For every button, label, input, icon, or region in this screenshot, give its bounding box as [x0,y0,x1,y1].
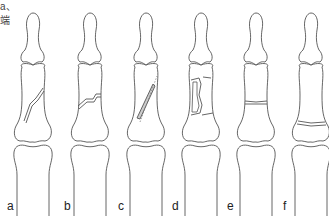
panel-label-d: d [172,199,179,213]
panel-label-f: f [283,199,286,213]
panel-label-e: e [227,199,234,213]
finger-a [14,13,52,216]
panel-label-b: b [64,199,71,213]
phalanx-fracture-diagram [0,0,329,216]
finger-c [127,13,165,216]
panel-label-a: a [7,199,14,213]
finger-d [182,13,220,216]
finger-b [71,13,109,216]
finger-f [292,13,329,216]
panel-label-c: c [118,199,124,213]
finger-e [237,13,275,216]
